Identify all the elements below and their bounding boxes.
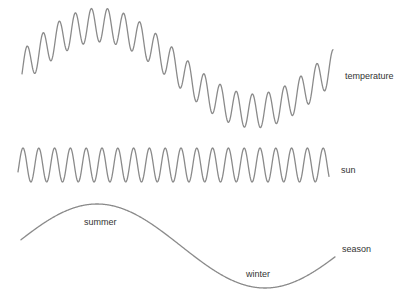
waves-svg <box>0 0 404 307</box>
summer-annotation: summer <box>84 218 117 227</box>
diagram-canvas: temperature sun season summer winter <box>0 0 404 307</box>
season-label: season <box>342 245 371 254</box>
sun-label: sun <box>341 166 356 175</box>
sun-wave <box>18 148 329 182</box>
winter-annotation: winter <box>246 270 270 279</box>
temperature-wave <box>22 9 333 128</box>
temperature-label: temperature <box>345 72 394 81</box>
season-wave <box>21 204 335 288</box>
